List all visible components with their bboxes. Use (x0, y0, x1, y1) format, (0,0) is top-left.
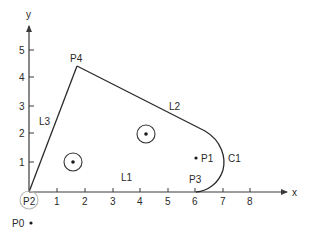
label-l3: L3 (39, 116, 51, 127)
x-tick-label-6: 6 (192, 196, 198, 207)
y-tick-label-4: 4 (19, 72, 25, 83)
label-p2: P2 (23, 196, 36, 207)
x-tick-label-7: 7 (220, 196, 226, 207)
label-p1: P1 (201, 153, 214, 164)
x-tick-label-5: 5 (165, 196, 171, 207)
x-tick-label-3: 3 (110, 196, 116, 207)
y-tick-label-5: 5 (19, 45, 25, 56)
hole-1-center-dot (71, 160, 75, 164)
label-p4: P4 (70, 53, 83, 64)
x-ticks: 1 2 3 4 5 6 7 8 (54, 188, 253, 207)
holes (64, 125, 155, 171)
label-c1: C1 (228, 153, 241, 164)
geometry-diagram: x y 1 2 3 4 5 6 7 8 1 (0, 0, 312, 236)
y-ticks: 1 2 3 4 5 (19, 45, 34, 168)
label-l1: L1 (121, 172, 133, 183)
label-l2: L2 (169, 101, 181, 112)
x-axis-label: x (292, 187, 297, 198)
labels: P4 P2 P0 P1 P3 L1 L2 L3 C1 (12, 53, 241, 229)
p1-dot (194, 156, 197, 159)
p0-dot (29, 221, 32, 224)
y-tick-label-1: 1 (19, 157, 25, 168)
x-tick-label-8: 8 (247, 196, 253, 207)
label-p0: P0 (12, 218, 25, 229)
x-tick-label-4: 4 (137, 196, 143, 207)
hole-2-center-dot (144, 132, 148, 136)
y-tick-label-2: 2 (19, 128, 25, 139)
y-tick-label-3: 3 (19, 101, 25, 112)
segment-l3 (29, 66, 77, 192)
y-axis-label: y (26, 9, 31, 20)
x-tick-label-1: 1 (54, 196, 60, 207)
segment-l2 (77, 66, 205, 131)
x-tick-label-2: 2 (82, 196, 88, 207)
label-p3: P3 (189, 174, 202, 185)
